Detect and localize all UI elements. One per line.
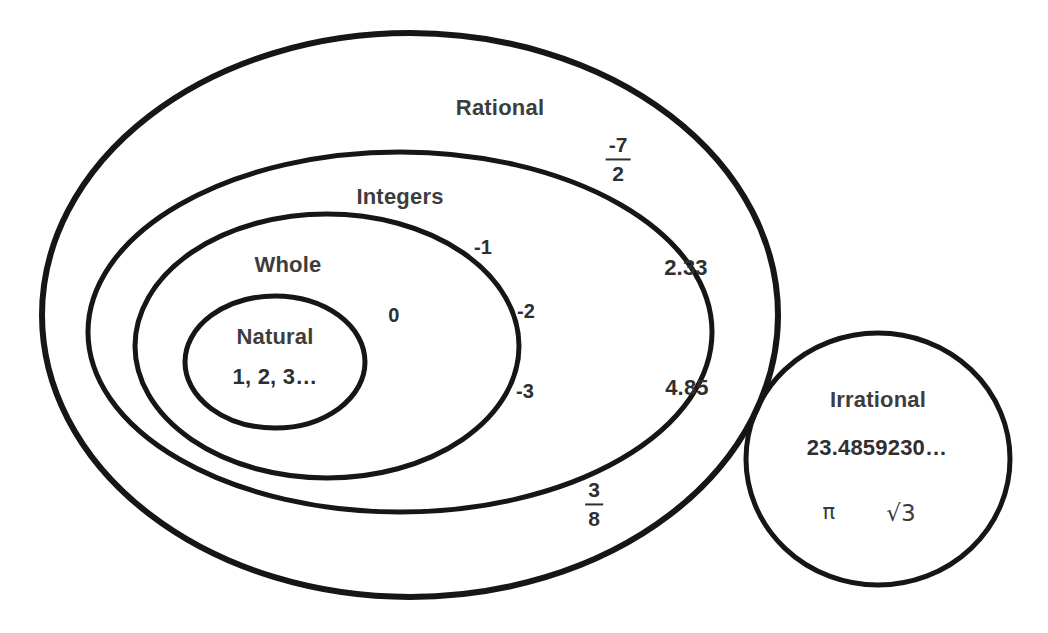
fraction-denominator: 8 [585, 508, 603, 531]
whole-set-outline[interactable] [135, 214, 519, 478]
diagram-canvas: Rational Integers Whole Natural Irration… [0, 0, 1048, 633]
decimal-4-85-label: 4.85 [665, 377, 709, 399]
irrational-decimal-label: 23.4859230… [807, 437, 947, 459]
decimal-2-33-label: 2.33 [664, 257, 708, 279]
zero-label: 0 [388, 305, 399, 325]
fraction-three-eighths: 3 8 [585, 479, 603, 530]
negative-one-label: -1 [474, 237, 492, 257]
natural-set-outline[interactable] [185, 296, 365, 428]
fraction-numerator: 3 [585, 479, 603, 502]
natural-set-label: Natural [236, 326, 313, 348]
natural-examples-label: 1, 2, 3… [233, 366, 318, 388]
square-root-three-symbol: √3 [886, 502, 916, 525]
fraction-denominator: 2 [606, 163, 631, 186]
pi-symbol: π [823, 502, 836, 523]
fraction-negative-seven-halves: -7 2 [606, 134, 631, 185]
fraction-bar [606, 159, 631, 161]
rational-set-label: Rational [456, 97, 544, 119]
fraction-bar [585, 504, 603, 506]
irrational-set-label: Irrational [830, 389, 926, 411]
whole-set-label: Whole [255, 254, 322, 276]
integers-set-label: Integers [356, 186, 443, 208]
negative-two-label: -2 [517, 301, 535, 321]
fraction-numerator: -7 [606, 134, 631, 157]
negative-three-label: -3 [516, 381, 534, 401]
